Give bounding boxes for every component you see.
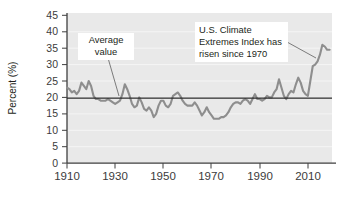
y-tick-label: 25: [46, 75, 58, 87]
x-tick-label: 1970: [198, 170, 224, 182]
average-callout-line2: value: [95, 46, 117, 57]
trend-callout-line2: Extremes Index has: [199, 36, 282, 47]
y-tick-label: 30: [46, 58, 58, 70]
y-tick-label: 5: [52, 140, 58, 152]
y-tick-label: 10: [46, 124, 58, 136]
x-tick-label: 2010: [295, 170, 321, 182]
y-tick-label: 45: [46, 9, 58, 21]
y-axis-ticks: [62, 15, 67, 163]
y-tick-label: 40: [46, 25, 58, 37]
y-tick-label: 35: [46, 42, 58, 54]
trend-callout-line1: U.S. Climate: [199, 24, 252, 35]
y-axis-tick-labels: 0 5 10 15 20 25 30 35 40 45: [46, 9, 58, 169]
y-tick-label: 0: [52, 157, 58, 169]
y-tick-label: 15: [46, 107, 58, 119]
trend-callout-line3: risen since 1970: [199, 48, 267, 59]
y-tick-label: 20: [46, 91, 58, 103]
x-tick-label: 1910: [54, 170, 80, 182]
x-tick-label: 1950: [150, 170, 176, 182]
x-axis-ticks: [67, 163, 308, 168]
chart-figure: Percent (%) 0 5 10 15 20 25 30 35 40 45: [0, 0, 352, 203]
average-callout-line1: Average: [89, 34, 124, 45]
x-tick-label: 1990: [247, 170, 273, 182]
x-tick-label: 1930: [102, 170, 128, 182]
y-axis-label: Percent (%): [7, 62, 18, 115]
x-axis-tick-labels: 1910 1930 1950 1970 1990 2010: [54, 170, 321, 182]
